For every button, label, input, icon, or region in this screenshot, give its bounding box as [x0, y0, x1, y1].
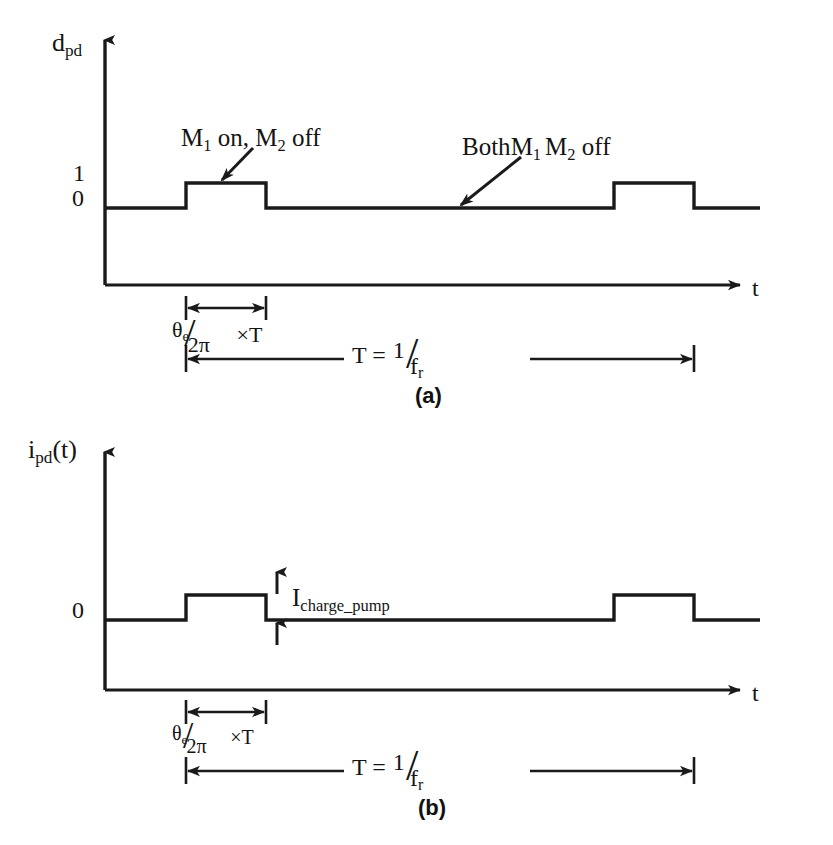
- panel-b-period-label: T = 1/f r 1 / fr: [352, 751, 433, 788]
- panel-b-y-axis-label: ipd(t): [28, 437, 77, 466]
- panel-a-period-label: T = 1/f r 1 / fr: [352, 339, 433, 376]
- panel-b-period-denominator: fr: [410, 766, 423, 793]
- panel-b-pw-num-main: θ: [172, 722, 182, 744]
- panel-a-period-den-sub: r: [418, 364, 423, 381]
- panel-b-pulse-width-label: θe/2π θe / 2π ×T: [172, 724, 254, 755]
- panel-b-period-den-sub: r: [418, 776, 423, 793]
- panel-b-period-numerator: 1: [393, 750, 405, 774]
- annot-a-right-s1: 1: [533, 145, 541, 164]
- panel-b-period-fraction: 1/f r 1 / fr: [393, 751, 434, 788]
- panel-b-pw-denominator: 2π: [186, 736, 206, 756]
- annot-a-right-p2: M: [511, 133, 533, 160]
- panel-a-pulse-width-fraction: θe/2π θe / 2π: [172, 320, 221, 354]
- panel-a-period-denominator: fr: [410, 354, 423, 381]
- annot-a-right-p4: off: [576, 133, 611, 160]
- panel-a-period-fraction: 1/f r 1 / fr: [393, 339, 434, 376]
- panel-a-period-prefix: T =: [352, 342, 386, 368]
- panel-b-period-prefix: T =: [352, 754, 386, 780]
- waveform-diagram-svg: [0, 0, 833, 845]
- panel-b-axes: [105, 452, 740, 690]
- panel-b-caption: (b): [418, 797, 446, 819]
- annot-a-left-p2: on, M: [211, 124, 277, 151]
- panel-a-axes: [105, 40, 740, 285]
- panel-a-pulse-width-label: θe/2π θe / 2π ×T: [172, 320, 262, 354]
- panel-a-y-axis-label-main: d: [52, 28, 65, 57]
- panel-b-period-measure: [186, 757, 694, 784]
- panel-a-ytick-high: 1: [73, 161, 85, 185]
- panel-a-annotation-arrow-right: [461, 157, 521, 205]
- annot-a-left-s2: 2: [277, 136, 285, 155]
- panel-b-period-den-main: f: [410, 765, 418, 791]
- panel-a-y-axis-label: dpd: [52, 30, 82, 59]
- panel-b-ytick-low: 0: [72, 598, 84, 622]
- panel-a-pw-denominator: 2π: [188, 334, 210, 356]
- annot-a-left-p3: off: [286, 124, 321, 151]
- panel-b-y-axis-label-sub: pd: [35, 448, 52, 467]
- panel-a-period-numerator: 1: [393, 338, 405, 362]
- panel-b-x-axis-label: t: [752, 681, 759, 705]
- panel-b-pulse-width-fraction: θe/2π θe / 2π: [172, 724, 216, 755]
- panel-b-y-axis-label-arg: (t): [52, 435, 77, 464]
- panel-b-pw-suffix: ×T: [230, 726, 254, 748]
- panel-b-pulse-width-measure: [186, 700, 266, 724]
- panel-a-pw-num-main: θ: [172, 317, 183, 342]
- panel-b-waveform: [106, 595, 760, 620]
- panel-a-waveform: [106, 183, 760, 208]
- panel-a-pw-suffix: ×T: [237, 322, 263, 347]
- panel-a-ytick-low: 0: [72, 186, 84, 210]
- panel-a-pulse-width-measure: [186, 296, 266, 320]
- panel-a-annotation-both-off: BothM1M2 off: [462, 134, 611, 163]
- panel-b-amplitude-label: Icharge_pump: [292, 585, 390, 614]
- figure-container: dpd 1 0 t M1 on, M2 off BothM1M2 off θe/…: [0, 0, 833, 845]
- annot-a-right-s2: 2: [567, 145, 575, 164]
- annot-a-right-p3: M: [545, 133, 567, 160]
- panel-a-caption: (a): [415, 385, 442, 407]
- panel-a-y-axis-label-sub: pd: [65, 41, 82, 60]
- panel-a-period-den-main: f: [410, 353, 418, 379]
- annot-a-left-p1: M: [181, 124, 203, 151]
- annot-a-right-p1: Both: [462, 133, 511, 160]
- panel-a-annotation-m1-on-m2-off: M1 on, M2 off: [181, 125, 321, 154]
- panel-b-amp-sub: charge_pump: [300, 596, 390, 615]
- panel-a-x-axis-label: t: [752, 276, 759, 300]
